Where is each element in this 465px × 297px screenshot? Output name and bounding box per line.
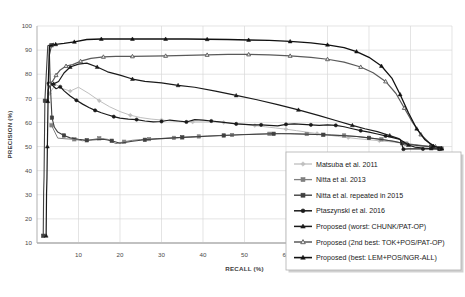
legend-swatch-marker xyxy=(301,178,305,182)
series-marker xyxy=(160,120,163,123)
legend-label: Proposed (worst: CHUNK/PAT-OP) xyxy=(316,223,426,231)
series-marker xyxy=(284,123,287,126)
series-marker xyxy=(185,120,188,123)
y-tick-label: 80 xyxy=(25,70,32,77)
series-marker xyxy=(272,132,275,135)
series-marker xyxy=(402,148,405,151)
y-tick-label: 100 xyxy=(22,22,33,29)
series-marker xyxy=(210,119,213,122)
series-marker xyxy=(110,139,113,142)
x-tick-label: 30 xyxy=(158,251,165,258)
precision-recall-chart: 1020304050607080901001020304050607080901… xyxy=(0,0,465,297)
series-marker xyxy=(367,136,370,139)
y-axis-title: PRECISION (%) xyxy=(6,111,13,159)
legend-item-6[interactable]: Proposed (best: LEM+POS/NGR-ALL) xyxy=(294,254,437,262)
y-tick-label: 70 xyxy=(25,95,32,102)
x-tick-label: 40 xyxy=(200,251,207,258)
chart-svg: 1020304050607080901001020304050607080901… xyxy=(0,0,465,297)
series-marker xyxy=(75,99,78,102)
legend-label: Nitta et al. repeated in 2015 xyxy=(316,192,403,200)
series-marker xyxy=(93,109,96,112)
x-tick-label: 50 xyxy=(241,251,248,258)
y-tick-label: 60 xyxy=(25,119,32,126)
series-marker xyxy=(85,139,88,142)
series-marker xyxy=(259,123,262,126)
series-marker xyxy=(334,124,337,127)
y-tick-label: 30 xyxy=(25,191,32,198)
legend-label: Proposed (best: LEM+POS/NGR-ALL) xyxy=(316,254,437,262)
series-marker xyxy=(309,123,312,126)
x-tick-label: 20 xyxy=(117,251,124,258)
legend-label: Ptaszynski et al. 2016 xyxy=(316,207,385,215)
series-marker xyxy=(50,116,53,119)
series-marker xyxy=(222,134,225,137)
legend-label: Proposed (2nd best: TOK+POS/PAT-OP) xyxy=(316,239,445,247)
legend-layer: Matsuba et al. 2011Nitta et al. 2013Nitt… xyxy=(286,152,464,273)
legend-swatch-marker xyxy=(301,193,305,197)
y-tick-label: 40 xyxy=(25,167,32,174)
series-marker xyxy=(181,136,184,139)
series-marker xyxy=(143,138,146,141)
y-tick-label: 20 xyxy=(25,215,32,222)
y-tick-label: 50 xyxy=(25,143,32,150)
series-marker xyxy=(50,124,53,127)
x-axis-title: RECALL (%) xyxy=(225,265,263,272)
y-tick-label: 10 xyxy=(25,239,32,246)
series-marker xyxy=(322,133,325,136)
series-marker xyxy=(359,129,362,132)
series-marker xyxy=(235,122,238,125)
series-marker xyxy=(59,85,62,88)
series-marker xyxy=(62,134,65,137)
legend-item-5[interactable]: Proposed (2nd best: TOK+POS/PAT-OP) xyxy=(294,239,445,247)
y-tick-label: 90 xyxy=(25,46,32,53)
series-marker xyxy=(135,118,138,121)
series-marker xyxy=(112,115,115,118)
legend-label: Matsuba et al. 2011 xyxy=(316,161,378,169)
legend-label: Nitta et al. 2013 xyxy=(316,176,366,184)
legend-swatch-marker xyxy=(301,209,305,213)
x-tick-label: 10 xyxy=(75,251,82,258)
